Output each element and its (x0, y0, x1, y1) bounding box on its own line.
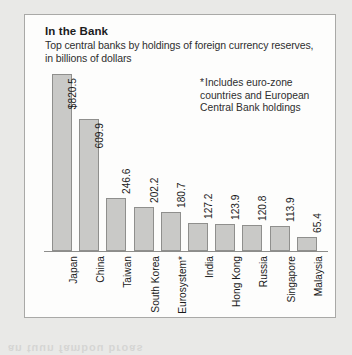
category-label-russia: Russia (258, 256, 269, 287)
bar-india (188, 223, 208, 251)
bar-singapore (270, 226, 290, 251)
bar-russia (242, 225, 262, 251)
bar-value-label: 120.8 (257, 196, 268, 222)
bar-value-label: 180.7 (176, 183, 187, 209)
bar-south-korea (134, 207, 154, 251)
bar-hong-kong (215, 224, 235, 251)
category-label-taiwan: Taiwan (122, 256, 133, 288)
bar-value-label: 246.6 (121, 169, 132, 195)
bar-value-label: 202.2 (149, 178, 160, 204)
bar-value-label: 123.9 (230, 195, 241, 221)
bar-value-label: 609.9 (94, 123, 105, 149)
category-label-hong-kong: Hong Kong (231, 256, 242, 307)
chart-header: In the Bank Top central banks by holding… (45, 25, 320, 64)
category-label-china: China (95, 256, 106, 283)
chart-baseline-axis (44, 251, 328, 252)
category-label-eurosystem: Eurosystem* (177, 256, 188, 314)
bar-value-label: 127.2 (203, 194, 214, 220)
category-label-south-korea: South Korea (150, 256, 161, 313)
category-label-india: India (204, 256, 215, 278)
category-label-malaysia: Malaysia (313, 256, 324, 296)
bar-taiwan (106, 198, 126, 251)
scan-bleed-through: an tuun fambou broas (0, 330, 352, 355)
bar-eurosystem (161, 212, 181, 251)
bar-value-label: 113.9 (285, 197, 296, 222)
category-label-japan: Japan (68, 256, 79, 284)
chart-panel: In the Bank Top central banks by holding… (24, 14, 336, 318)
chart-title: In the Bank (45, 25, 320, 37)
category-label-singapore: Singapore (286, 256, 297, 302)
bar-malaysia (297, 237, 317, 251)
bar-value-label: 65.4 (312, 213, 323, 233)
bar-value-label: $820.5 (67, 78, 78, 109)
chart-subtitle: Top central banks by holdings of foreign… (45, 39, 320, 64)
